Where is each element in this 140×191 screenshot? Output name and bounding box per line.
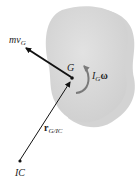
center-of-mass-point	[70, 76, 74, 80]
center-label: G	[67, 62, 74, 73]
position-vector-label: rG/IC	[44, 122, 63, 135]
momentum-label: mvG	[9, 34, 26, 47]
rigid-body-shape	[46, 6, 128, 122]
instantaneous-center-point	[18, 159, 21, 162]
ic-label: IC	[14, 167, 25, 178]
position-vector-arrow	[20, 82, 70, 160]
rigid-body-momentum-diagram: mvG G IGω rG/IC IC	[0, 0, 140, 191]
